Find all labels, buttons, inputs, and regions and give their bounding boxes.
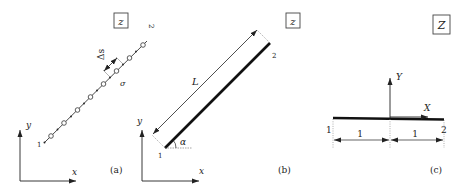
panel-b-caption: (b) — [278, 165, 291, 175]
panel-a-y-label: y — [25, 120, 32, 130]
panel-a-end-1: 1 — [37, 141, 41, 149]
panel-a-x-label: x — [72, 167, 77, 177]
panel-b-y-label: y — [136, 116, 143, 126]
panel-a-delta-s-label: Δs — [96, 49, 106, 60]
panel-b-end-2: 2 — [272, 52, 276, 60]
panel-a-z-box: z — [114, 13, 128, 28]
panel-c-element — [333, 118, 444, 120]
panel-a: z y x — [20, 13, 155, 181]
panel-c-axes: Y X — [390, 72, 431, 118]
panel-c-y-label: Y — [396, 72, 403, 82]
panel-c-end-2: 2 — [441, 125, 447, 135]
panel-a-z-label: z — [117, 16, 124, 27]
panel-c-right-half-label: 1 — [412, 129, 418, 139]
figure-canvas: z y x — [0, 0, 470, 191]
panel-b-element — [165, 43, 270, 148]
panel-c-z-box: Z — [433, 15, 450, 34]
panel-a-end-2: 2 — [147, 24, 155, 28]
panel-a-axes: y x — [20, 120, 77, 181]
panel-b-length-label: L — [191, 76, 199, 87]
panel-c-dimensions: 1 1 — [334, 129, 443, 140]
panel-a-sigma-label: σ — [120, 79, 126, 88]
panel-c-x-label: X — [423, 103, 431, 113]
panel-c-extension-lines — [333, 119, 444, 148]
panel-b-z-label: z — [289, 16, 296, 27]
panel-c: Z Y X 1 1 1 2 (c) — [326, 15, 450, 175]
panel-c-caption: (c) — [430, 165, 442, 175]
panel-b: z y x L α 1 2 (b) — [136, 13, 300, 181]
panel-b-alpha-label: α — [180, 137, 186, 147]
panel-b-end-1: 1 — [158, 152, 162, 160]
panel-c-z-label: Z — [437, 19, 446, 32]
panel-a-spacing-dim: Δs σ — [96, 49, 126, 88]
panel-a-element-chain: 1 2 — [37, 24, 155, 149]
panel-b-axes: y x — [136, 116, 204, 181]
panel-c-end-1: 1 — [326, 125, 332, 135]
panel-b-x-label: x — [199, 166, 204, 176]
panel-b-z-box: z — [286, 13, 300, 28]
panel-b-length-dim: L — [152, 30, 270, 148]
panel-c-left-half-label: 1 — [357, 129, 363, 139]
panel-a-caption: (a) — [110, 165, 122, 175]
